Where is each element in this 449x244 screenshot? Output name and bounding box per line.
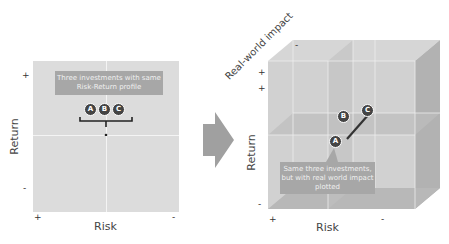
marker-a-3d: A bbox=[329, 135, 342, 148]
risk-return-plot: Three investments with same Risk-Return … bbox=[33, 61, 179, 212]
risk-minus: - bbox=[172, 212, 175, 222]
return-plus-3d: + bbox=[258, 83, 266, 93]
marker-a: A bbox=[84, 103, 97, 116]
marker-c: C bbox=[112, 103, 125, 116]
risk-plus: + bbox=[34, 212, 42, 222]
risk-axis-label: Risk bbox=[94, 220, 117, 233]
return-axis-label-3d: Return bbox=[245, 134, 258, 171]
bracket-icon bbox=[78, 116, 134, 136]
callout-pointer bbox=[320, 148, 340, 162]
return-minus-3d: - bbox=[258, 199, 261, 209]
risk-minus-3d: - bbox=[381, 214, 384, 224]
marker-c-3d: C bbox=[361, 104, 374, 117]
arrow-right-icon bbox=[203, 112, 235, 168]
marker-b-3d: B bbox=[337, 110, 350, 123]
callout-impact-plotted: Same three investments, but with real wo… bbox=[280, 162, 375, 194]
return-plus: + bbox=[22, 70, 30, 80]
marker-b: B bbox=[98, 103, 111, 116]
impact-plus: + bbox=[258, 67, 266, 77]
risk-plus-3d: + bbox=[269, 214, 277, 224]
impact-minus: - bbox=[295, 40, 298, 50]
return-axis-label: Return bbox=[8, 118, 21, 155]
risk-axis-label-3d: Risk bbox=[316, 221, 339, 234]
callout-same-profile: Three investments with same Risk-Return … bbox=[55, 71, 163, 95]
return-minus: - bbox=[23, 183, 26, 193]
